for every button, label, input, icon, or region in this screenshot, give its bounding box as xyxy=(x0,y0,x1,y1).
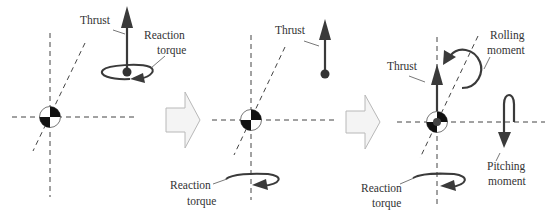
rolling-moment-label-2: moment xyxy=(487,44,525,56)
thrust-arrow-icon xyxy=(319,19,331,79)
center-of-gravity-icon xyxy=(40,107,61,128)
reaction-leader-line xyxy=(400,178,414,184)
rolling-leader-line xyxy=(484,57,490,69)
thrust-arrow-icon xyxy=(431,64,443,118)
panel-3: Thrust Rolling moment Pitching moment Re… xyxy=(361,29,545,210)
pitching-moment-label-1: Pitching xyxy=(487,160,526,173)
thrust-label: Thrust xyxy=(80,14,111,26)
rolling-moment-label-1: Rolling xyxy=(490,29,525,42)
reaction-torque-label-2: torque xyxy=(187,195,216,208)
reaction-torque-label-1: Reaction xyxy=(361,182,402,194)
thrust-label: Thrust xyxy=(275,24,306,36)
center-of-gravity-icon xyxy=(241,110,262,131)
reaction-leader-line xyxy=(151,56,165,68)
transition-arrow-icon xyxy=(166,92,200,148)
force-moment-diagram: Thrust Reaction torque Thrust React xyxy=(0,0,556,221)
reaction-torque-arrow-icon xyxy=(226,174,279,190)
axes-panel-1 xyxy=(12,33,135,197)
thrust-leader-line xyxy=(409,76,425,82)
reaction-torque-label-1: Reaction xyxy=(170,179,211,191)
reaction-torque-arrow-icon xyxy=(413,174,465,191)
pitching-moment-label-2: moment xyxy=(488,175,526,187)
center-of-gravity-icon xyxy=(427,112,448,133)
thrust-leader-line xyxy=(304,41,319,46)
panel-1: Thrust Reaction torque xyxy=(12,6,186,197)
reaction-torque-label-2: torque xyxy=(157,44,186,57)
reaction-torque-label-2: torque xyxy=(372,197,401,210)
thrust-leader-line xyxy=(113,30,125,34)
reaction-torque-label-1: Reaction xyxy=(144,29,185,41)
thrust-label: Thrust xyxy=(387,60,418,72)
reaction-leader-line xyxy=(213,179,227,184)
transition-arrow-icon xyxy=(346,95,380,149)
